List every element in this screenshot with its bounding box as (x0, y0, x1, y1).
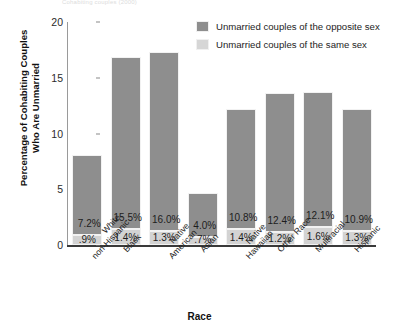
bar-segment-opposite-sex[interactable] (265, 93, 295, 231)
bar-segment-opposite-sex[interactable] (149, 52, 179, 230)
bar-stack[interactable]: 1.4%10.8% (226, 109, 256, 245)
y-axis-title-line-1: Percentage of Cohabiting Couples (18, 18, 30, 198)
x-axis-line (67, 245, 376, 247)
y-axis-title-line-2: Who Are Unmarried (30, 18, 42, 198)
y-axis-title: Percentage of Cohabiting Couples Who Are… (18, 18, 42, 198)
legend-item-same-sex: Unmarried couples of the same sex (196, 36, 380, 52)
x-axis-title: Race (0, 311, 399, 322)
legend-label-same-sex: Unmarried couples of the same sex (216, 39, 367, 50)
bar-segment-opposite-sex[interactable] (303, 92, 333, 227)
legend-swatch-icon-same-sex (196, 39, 209, 50)
y-axis-tick-label: 0 (37, 239, 63, 251)
bar-segment-opposite-sex[interactable] (111, 57, 141, 230)
legend-label-opposite-sex: Unmarried couples of the opposite sex (216, 21, 380, 32)
bar-value-label-opposite-sex: 16.0% (151, 214, 181, 225)
bar-stack[interactable]: 1.2%12.4% (265, 93, 295, 245)
bar-stack[interactable]: 1.3%16.0% (149, 52, 179, 245)
bar-segment-opposite-sex[interactable] (226, 109, 256, 229)
legend-item-opposite-sex: Unmarried couples of the opposite sex (196, 18, 380, 34)
legend: Unmarried couples of the opposite sex Un… (196, 18, 380, 54)
chart-figure: Cohabiting couples (2000) 05101520 Perce… (0, 0, 399, 331)
bar-value-label-opposite-sex: 10.9% (344, 214, 374, 225)
bar-value-label-opposite-sex: 12.4% (267, 215, 297, 226)
cropped-caption-remnant: Cohabiting couples (2000) (62, 0, 137, 5)
legend-swatch-icon-opposite-sex (196, 21, 209, 32)
bar-segment-opposite-sex[interactable] (342, 109, 372, 231)
bar-value-label-opposite-sex: 10.8% (228, 212, 258, 223)
x-axis-tick-labels: White,non-HispanicBlackNativeAmericanAsi… (68, 248, 376, 308)
